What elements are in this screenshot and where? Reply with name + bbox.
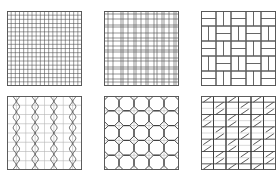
pattern-path [130,140,135,144]
uniform-grid-svg [7,11,82,86]
pattern-line [216,127,224,132]
panel-octagon-square-tiling [104,96,179,170]
pattern-path [119,121,124,125]
pattern-line [228,115,236,120]
pattern-line [203,164,211,169]
pattern-line [216,152,224,157]
pattern-line [228,121,236,126]
pattern-path [134,126,139,130]
pattern-path [164,126,169,130]
pattern-path [145,155,150,159]
pattern-path [149,155,154,159]
pattern-path [119,136,124,140]
pattern-path [149,126,154,130]
pattern-line [241,109,249,114]
pattern-line [228,97,236,102]
pattern-line [266,134,274,139]
pattern-path [160,111,165,115]
pattern-path [149,111,154,115]
pattern-path [130,136,135,140]
tiling-lines [104,96,179,170]
pattern-line [266,152,274,157]
pattern-path [164,155,169,159]
pattern-path [119,111,124,115]
pattern-path [115,140,120,144]
pattern-path [160,121,165,125]
pattern-path [130,126,135,130]
wave-lines [7,96,82,170]
pattern-path [160,140,165,144]
pattern-path [145,106,150,110]
pattern-path [134,106,139,110]
pinwheel-svg [201,96,276,170]
pattern-line [266,158,274,163]
pattern-path [130,151,135,155]
pattern-figure [0,0,280,175]
pattern-line [253,97,261,102]
pattern-path [134,136,139,140]
pattern-line [203,139,211,144]
basketweave-svg [201,11,276,86]
pattern-path [115,136,120,140]
pattern-path [145,136,150,140]
pattern-path [160,126,165,130]
pattern-path [119,151,124,155]
irregular-grid-svg [104,11,179,86]
pattern-path [115,111,120,115]
pattern-line [253,139,261,144]
octagon-tiling-svg [104,96,179,170]
pattern-line [241,134,249,139]
pattern-line [241,102,249,107]
grid-lines [104,11,179,86]
pattern-path [145,126,150,130]
pattern-line [266,127,274,132]
pattern-line [253,115,261,120]
pattern-line [241,158,249,163]
pattern-line [203,121,211,126]
panel-irregular-grid [104,11,179,86]
pattern-path [130,155,135,159]
pattern-path [134,155,139,159]
wavy-lines-svg [7,96,82,170]
pattern-path [134,111,139,115]
pattern-path [149,121,154,125]
pattern-line [266,109,274,114]
pinwheel-lines [201,96,276,170]
pattern-line [203,115,211,120]
panel-border [104,96,178,169]
pattern-path [149,151,154,155]
pattern-path [115,155,120,159]
pattern-line [216,102,224,107]
pattern-line [228,164,236,169]
pattern-path [119,106,124,110]
pattern-line [253,164,261,169]
pattern-line [216,134,224,139]
pattern-path [145,121,150,125]
pattern-path [134,140,139,144]
pattern-path [119,140,124,144]
pattern-line [241,127,249,132]
pattern-path [160,151,165,155]
pattern-path [145,140,150,144]
pattern-path [149,136,154,140]
pattern-path [145,151,150,155]
pattern-line [203,97,211,102]
pattern-path [115,106,120,110]
pattern-path [164,121,169,125]
pattern-path [119,155,124,159]
panel-pinwheel-h-diagonal [201,96,276,170]
pattern-path [119,126,124,130]
pattern-path [164,106,169,110]
pattern-path [115,126,120,130]
pattern-line [266,102,274,107]
pattern-path [115,121,120,125]
pattern-line [216,158,224,163]
pattern-path [164,151,169,155]
pattern-path [149,140,154,144]
pattern-path [160,136,165,140]
pattern-path [134,151,139,155]
panel-border [104,11,178,85]
pattern-line [203,146,211,151]
grid-lines [7,11,82,86]
pattern-path [164,111,169,115]
